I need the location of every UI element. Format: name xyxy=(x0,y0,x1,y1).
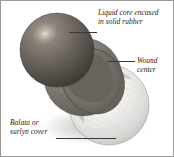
core-leader-line xyxy=(69,32,97,33)
golf-ball-cutaway-figure: Liquid core encased in solid rubber Woun… xyxy=(0,0,174,157)
liquid-core xyxy=(20,13,94,87)
label-balata-surlyn-cover: Balata or surlyn cover xyxy=(10,118,70,136)
wound-leader-line xyxy=(107,61,135,62)
label-liquid-core: Liquid core encased in solid rubber xyxy=(98,8,172,26)
label-wound-center: Wound center xyxy=(137,56,174,74)
cover-leader-line xyxy=(56,138,116,139)
